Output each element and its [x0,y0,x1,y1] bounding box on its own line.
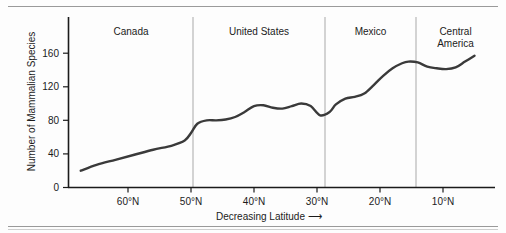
x-axis-title-group: Decreasing Latitude ⟶ [216,211,321,222]
y-tick-label-120: 120 [25,81,59,92]
x-tick-label-60n: 60°N [105,196,151,207]
region-label-mexico: Mexico [325,26,416,38]
region-label-united-states: United States [193,26,325,38]
y-tick-label-0: 0 [25,182,59,193]
region-divider-lines [193,17,416,187]
y-tick-label-40: 40 [25,148,59,159]
x-tick-label-50n: 50°N [168,196,214,207]
region-label-central-america-line1: Central [416,26,495,38]
x-tick-label-10n: 10°N [420,196,466,207]
y-axis-ticks [63,53,69,187]
right-arrow-icon: ⟶ [308,211,321,222]
region-label-canada: Canada [69,26,193,38]
x-tick-label-30n: 30°N [294,196,340,207]
region-label-central-america: Central America [416,26,495,50]
x-axis-title: Decreasing Latitude [216,211,305,222]
data-series-line [81,56,475,171]
x-tick-label-40n: 40°N [231,196,277,207]
figure-container: Number of Mammalian Species 160 120 80 4… [0,0,506,233]
region-label-central-america-line2: America [416,38,495,50]
y-tick-label-160: 160 [25,48,59,59]
y-tick-label-80: 80 [25,115,59,126]
x-tick-label-20n: 20°N [357,196,403,207]
